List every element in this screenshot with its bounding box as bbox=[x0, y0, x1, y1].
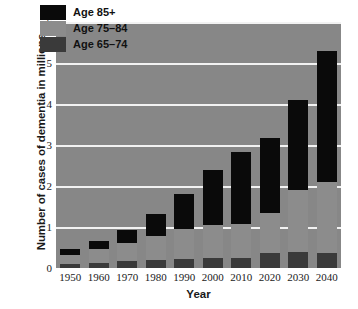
bar-segment bbox=[317, 51, 337, 183]
bar-segment bbox=[60, 264, 80, 268]
bar-segment bbox=[60, 255, 80, 264]
x-tick-label: 1980 bbox=[142, 271, 171, 283]
bar-segment bbox=[146, 214, 166, 236]
x-tick-label: 2020 bbox=[256, 271, 285, 283]
bar-column-2000 bbox=[203, 22, 223, 268]
bar-segment bbox=[146, 260, 166, 268]
bar-segment bbox=[288, 100, 308, 190]
y-tick-label: 5 bbox=[30, 57, 52, 69]
legend-item: Age 75–84 bbox=[40, 21, 127, 36]
x-tick-label: 1990 bbox=[170, 271, 199, 283]
bar-segment bbox=[89, 249, 109, 263]
x-tick-label: 2010 bbox=[227, 271, 256, 283]
bar-segment bbox=[117, 230, 137, 244]
x-tick-label: 2040 bbox=[313, 271, 342, 283]
y-tick-label: 1 bbox=[30, 221, 52, 233]
dementia-cases-stacked-bar-chart: Number of cases of dementia in millions … bbox=[0, 0, 358, 309]
x-axis-label: Year bbox=[56, 288, 341, 300]
bar-segment bbox=[260, 213, 280, 253]
bar-column-1980 bbox=[146, 22, 166, 268]
bar-segment bbox=[260, 138, 280, 213]
legend-swatch-icon bbox=[40, 5, 66, 20]
bar-segment bbox=[174, 194, 194, 229]
x-tick-label: 1960 bbox=[85, 271, 114, 283]
bar-segment bbox=[117, 261, 137, 268]
x-tick-label: 2000 bbox=[199, 271, 228, 283]
bar-segment bbox=[174, 259, 194, 268]
chart-legend: Age 85+Age 75–84Age 65–74 bbox=[40, 5, 127, 52]
legend-swatch-icon bbox=[40, 21, 66, 36]
bar-segment bbox=[317, 253, 337, 268]
bar-column-2010 bbox=[231, 22, 251, 268]
bar-segment bbox=[174, 229, 194, 259]
bar-column-1950 bbox=[60, 22, 80, 268]
bar-segment bbox=[89, 241, 109, 250]
bar-segment bbox=[60, 249, 80, 256]
bar-column-2020 bbox=[260, 22, 280, 268]
bar-column-1990 bbox=[174, 22, 194, 268]
bar-segment bbox=[146, 236, 166, 260]
legend-swatch-icon bbox=[40, 37, 66, 52]
x-tick-label: 2030 bbox=[284, 271, 313, 283]
bar-group bbox=[56, 22, 341, 268]
bar-column-1970 bbox=[117, 22, 137, 268]
x-tick-label: 1950 bbox=[56, 271, 85, 283]
bar-segment bbox=[117, 243, 137, 261]
bar-segment bbox=[203, 225, 223, 259]
bar-segment bbox=[317, 182, 337, 253]
y-tick-label: 2 bbox=[30, 180, 52, 192]
bar-segment bbox=[231, 224, 251, 258]
legend-item: Age 85+ bbox=[40, 5, 127, 20]
y-tick-label: 0 bbox=[30, 262, 52, 274]
legend-item: Age 65–74 bbox=[40, 37, 127, 52]
y-tick-label: 4 bbox=[30, 98, 52, 110]
bar-segment bbox=[89, 263, 109, 268]
bar-segment bbox=[203, 170, 223, 224]
bar-segment bbox=[231, 152, 251, 224]
x-axis-tick-labels: 1950196019701980199020002010202020302040 bbox=[56, 271, 341, 283]
bar-column-2040 bbox=[317, 22, 337, 268]
legend-label: Age 75–84 bbox=[73, 23, 127, 34]
bar-segment bbox=[288, 190, 308, 252]
y-axis-tick-labels: 6543210 bbox=[30, 22, 52, 268]
bar-segment bbox=[203, 258, 223, 268]
legend-label: Age 65–74 bbox=[73, 39, 127, 50]
x-tick-label: 1970 bbox=[113, 271, 142, 283]
plot-area bbox=[56, 22, 341, 268]
y-tick-label: 3 bbox=[30, 139, 52, 151]
bar-column-2030 bbox=[288, 22, 308, 268]
bar-column-1960 bbox=[89, 22, 109, 268]
bar-segment bbox=[288, 252, 308, 268]
bar-segment bbox=[231, 258, 251, 268]
bar-segment bbox=[260, 253, 280, 268]
legend-label: Age 85+ bbox=[73, 7, 116, 18]
